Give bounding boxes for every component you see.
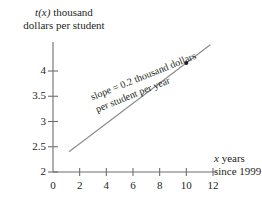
x-tick-label: 2 xyxy=(70,179,90,191)
x-tick-label: 0 xyxy=(43,179,63,191)
x-tick-label: 4 xyxy=(96,179,116,191)
y-tick-label: 3 xyxy=(20,115,46,127)
y-tick-label: 2 xyxy=(20,165,46,177)
x-tick-label: 10 xyxy=(176,179,196,191)
y-tick-label: 2.5 xyxy=(20,140,46,152)
x-tick-label: 12 xyxy=(203,179,223,191)
x-tick-label: 8 xyxy=(150,179,170,191)
x-tick-label: 6 xyxy=(123,179,143,191)
y-tick-label: 3.5 xyxy=(20,89,46,101)
y-tick-label: 4 xyxy=(20,64,46,76)
chart-figure: t(x) thousand dollars per student x year… xyxy=(0,0,262,198)
